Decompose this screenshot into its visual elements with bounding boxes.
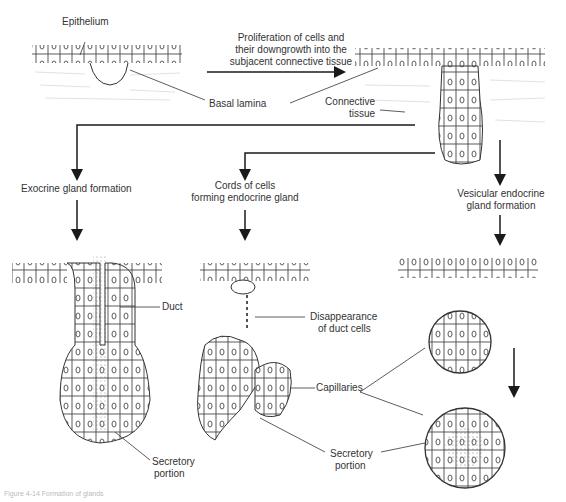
vesicular-endocrine-gland xyxy=(360,258,538,488)
label-proliferation: Proliferation of cells and their downgro… xyxy=(206,32,376,68)
exocrine-gland xyxy=(12,255,162,460)
label-cords: Cords of cells forming endocrine gland xyxy=(175,180,315,204)
label-basal-lamina: Basal lamina xyxy=(209,98,266,110)
label-connective-tissue: Connective tissue xyxy=(324,96,375,120)
label-epithelium: Epithelium xyxy=(62,16,109,28)
label-disappearance: Disappearance of duct cells xyxy=(310,311,377,335)
cords-endocrine-gland xyxy=(198,263,325,452)
label-secretory-portion-endocrine: Secretory portion xyxy=(330,448,373,472)
label-duct: Duct xyxy=(162,301,183,313)
figure-caption: Figure 4-14 Formation of glands xyxy=(4,490,104,497)
gland-formation-diagram xyxy=(0,0,566,502)
label-secretory-portion-exocrine: Secretory portion xyxy=(152,456,195,480)
label-exocrine: Exocrine gland formation xyxy=(21,183,132,195)
label-vesicular: Vesicular endocrine gland formation xyxy=(446,188,556,212)
initial-epithelium xyxy=(32,42,205,100)
label-capillaries: Capillaries xyxy=(316,382,363,394)
